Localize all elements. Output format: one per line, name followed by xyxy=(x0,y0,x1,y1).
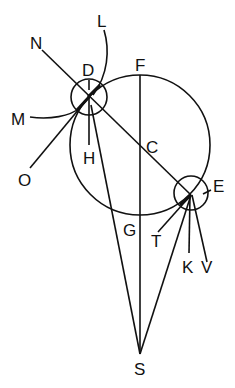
label-s: S xyxy=(134,360,145,379)
diagram-canvas: N L D F M H C O E G T K V S xyxy=(0,0,235,388)
label-m: M xyxy=(11,110,25,129)
label-n: N xyxy=(30,34,42,53)
label-c: C xyxy=(146,138,158,157)
line-o xyxy=(30,97,89,168)
tick-e xyxy=(203,190,211,194)
label-e: E xyxy=(213,177,224,196)
label-l: L xyxy=(97,12,106,31)
label-o: O xyxy=(18,171,31,190)
line-v xyxy=(192,195,207,262)
label-t: T xyxy=(151,232,161,251)
label-h: H xyxy=(83,149,95,168)
label-d: D xyxy=(82,61,94,80)
label-f: F xyxy=(135,56,145,75)
line-n-to-e xyxy=(42,50,191,195)
thick-segment-l xyxy=(88,85,100,97)
line-k xyxy=(189,195,190,253)
label-v: V xyxy=(201,258,213,277)
label-g: G xyxy=(123,221,136,240)
label-k: K xyxy=(182,258,194,277)
